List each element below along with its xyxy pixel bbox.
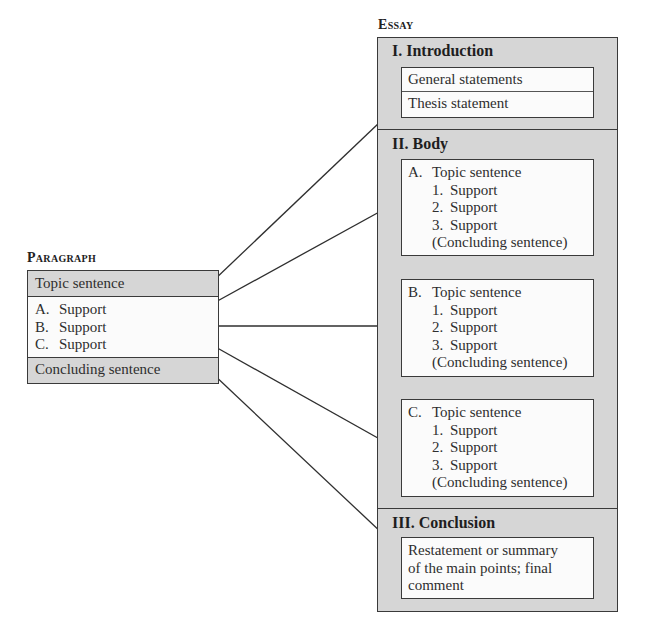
- concluding-sentence: (Concluding sentence): [432, 234, 567, 252]
- paragraph-letter: A.: [408, 164, 432, 182]
- support-letter: B.: [35, 319, 59, 337]
- paragraph-concluding-sentence: Concluding sentence: [35, 361, 160, 379]
- introduction-title: I. Introduction: [392, 42, 493, 60]
- support-text: Support: [450, 457, 498, 475]
- support-text: Support: [450, 302, 498, 320]
- connector-support-a-to-body-a: [212, 200, 401, 304]
- conclusion-content: Restatement or summary of the main point…: [408, 542, 558, 595]
- support-number: 2.: [432, 319, 450, 337]
- paragraph-topic-sentence: Topic sentence: [35, 275, 124, 293]
- connector-support-c-to-body-c: [212, 345, 401, 451]
- paragraph-box: Topic sentence A. Support B. Support C. …: [27, 270, 219, 384]
- paragraph-topic-band: Topic sentence: [28, 271, 218, 296]
- body-paragraph-a-content: A.Topic sentence 1.Support 2.Support 3.S…: [408, 164, 567, 252]
- conclusion-line: Restatement or summary: [408, 542, 558, 560]
- connector-concluding-to-conclusion: [212, 373, 401, 551]
- paragraph-support-a: A. Support: [35, 301, 107, 319]
- topic-sentence: Topic sentence: [432, 404, 521, 422]
- support-text: Support: [450, 422, 498, 440]
- introduction-box: General statements Thesis statement: [401, 67, 594, 118]
- support-number: 2.: [432, 199, 450, 217]
- paragraph-letter: C.: [408, 404, 432, 422]
- conclusion-title: III. Conclusion: [392, 514, 495, 532]
- thesis-statement: Thesis statement: [408, 95, 508, 113]
- body-title: II. Body: [392, 135, 448, 153]
- connector-topic-to-thesis: [212, 102, 401, 282]
- conclusion-line: comment: [408, 577, 558, 595]
- general-statements: General statements: [408, 71, 523, 89]
- support-text: Support: [59, 336, 107, 354]
- paragraph-letter: B.: [408, 284, 432, 302]
- support-text: Support: [450, 217, 498, 235]
- support-number: 3.: [432, 217, 450, 235]
- support-text: Support: [450, 319, 498, 337]
- body-paragraph-c-content: C.Topic sentence 1.Support 2.Support 3.S…: [408, 404, 567, 492]
- support-number: 1.: [432, 422, 450, 440]
- essay-box: I. Introduction General statements Thesi…: [377, 37, 618, 612]
- support-letter: C.: [35, 336, 59, 354]
- paragraph-supports: A. Support B. Support C. Support: [35, 301, 107, 354]
- paragraph-support-c: C. Support: [35, 336, 107, 354]
- body-paragraph-b: B.Topic sentence 1.Support 2.Support 3.S…: [401, 279, 594, 377]
- concluding-sentence: (Concluding sentence): [432, 474, 567, 492]
- essay-heading: Essay: [378, 17, 414, 33]
- support-number: 2.: [432, 439, 450, 457]
- paragraph-heading: Paragraph: [27, 250, 96, 266]
- body-paragraph-b-content: B.Topic sentence 1.Support 2.Support 3.S…: [408, 284, 567, 372]
- paragraph-concluding-band: Concluding sentence: [28, 358, 218, 383]
- support-number: 3.: [432, 457, 450, 475]
- paragraph-support-b: B. Support: [35, 319, 107, 337]
- support-letter: A.: [35, 301, 59, 319]
- support-text: Support: [59, 319, 107, 337]
- support-number: 1.: [432, 302, 450, 320]
- support-text: Support: [450, 199, 498, 217]
- support-number: 1.: [432, 182, 450, 200]
- support-text: Support: [59, 301, 107, 319]
- support-text: Support: [450, 337, 498, 355]
- topic-sentence: Topic sentence: [432, 164, 521, 182]
- support-number: 3.: [432, 337, 450, 355]
- support-text: Support: [450, 182, 498, 200]
- conclusion-box: Restatement or summary of the main point…: [401, 537, 594, 599]
- body-paragraph-c: C.Topic sentence 1.Support 2.Support 3.S…: [401, 399, 594, 497]
- concluding-sentence: (Concluding sentence): [432, 354, 567, 372]
- body-paragraph-a: A.Topic sentence 1.Support 2.Support 3.S…: [401, 159, 594, 256]
- support-text: Support: [450, 439, 498, 457]
- conclusion-line: of the main points; final: [408, 560, 558, 578]
- topic-sentence: Topic sentence: [432, 284, 521, 302]
